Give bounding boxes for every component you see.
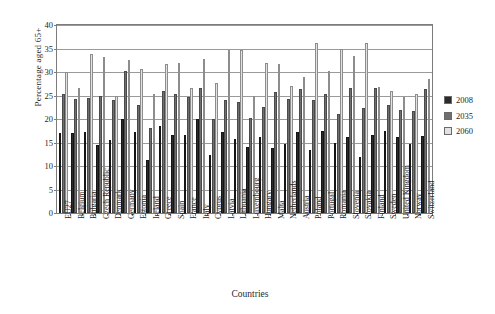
- y-axis-tick-mark: [54, 49, 57, 50]
- y-axis-tick-label: 0: [31, 209, 53, 218]
- bar-group: [332, 25, 345, 213]
- legend-item: 2035: [444, 112, 473, 121]
- y-axis-tick-mark: [54, 190, 57, 191]
- x-axis-tick-label: Romania: [340, 190, 348, 219]
- plot-area: 0510152025303540: [56, 24, 433, 214]
- y-axis-tick-label: 40: [31, 21, 53, 30]
- y-axis-tick-mark: [54, 96, 57, 97]
- x-axis-tick-label: United Kingdom: [403, 165, 411, 219]
- bar: [224, 100, 227, 213]
- legend-item: 2008: [444, 96, 473, 105]
- bar-group: [320, 25, 333, 213]
- x-axis-tick-label: Finland: [378, 195, 386, 219]
- bar: [203, 59, 206, 213]
- x-axis-tick-label: Austria: [303, 195, 311, 219]
- bar-group: [195, 25, 208, 213]
- bar: [303, 77, 306, 213]
- bar: [178, 63, 181, 213]
- x-axis-tick-label: Ireland: [153, 196, 161, 219]
- x-axis-tick-label: Czech Republic: [103, 168, 111, 219]
- x-axis-tick-label: Estonia: [140, 195, 148, 219]
- bar: [187, 97, 190, 213]
- x-axis-tick-label: Belgium: [78, 191, 86, 219]
- bar: [274, 92, 277, 213]
- x-axis-tick-label: Denmark: [115, 189, 123, 219]
- bar-group: [307, 25, 320, 213]
- chart-legend: 200820352060: [444, 96, 473, 143]
- x-axis-tick-label: Poland: [315, 197, 323, 219]
- bar-group: [82, 25, 95, 213]
- bar-group: [120, 25, 133, 213]
- bar: [153, 94, 156, 213]
- bar-group: [132, 25, 145, 213]
- chart-figure: Percentage aged 65+ 0510152025303540 Cou…: [0, 0, 495, 314]
- y-axis-tick-label: 25: [31, 91, 53, 100]
- bar-group: [382, 25, 395, 213]
- x-axis-title: Countries: [160, 289, 340, 299]
- x-axis-tick-label: Netherlands: [290, 180, 298, 219]
- x-axis-tick-label: EU27: [65, 200, 73, 219]
- y-axis-tick-label: 20: [31, 115, 53, 124]
- y-axis-tick-label: 5: [31, 185, 53, 194]
- bar: [315, 43, 318, 213]
- bar: [228, 50, 231, 213]
- y-axis-tick-mark: [54, 119, 57, 120]
- legend-swatch-icon: [444, 127, 452, 135]
- bar-group: [370, 25, 383, 213]
- x-axis-tick-label: Sweden: [390, 194, 398, 219]
- bar: [90, 54, 93, 213]
- y-axis-tick-label: 15: [31, 138, 53, 147]
- bar-series-layer: [57, 25, 432, 213]
- legend-swatch-icon: [444, 112, 452, 120]
- bar: [165, 64, 168, 213]
- x-axis-tick-label: Slovenia: [353, 191, 361, 219]
- legend-item: 2060: [444, 127, 473, 136]
- x-axis-tick-label: Italy: [203, 204, 211, 219]
- x-axis-tick-label: Lithuania: [240, 188, 248, 219]
- legend-swatch-icon: [444, 96, 452, 104]
- x-axis-tick-label: Slovakia: [365, 191, 373, 219]
- bar-group: [170, 25, 183, 213]
- bar-group: [145, 25, 158, 213]
- x-axis-tick-label: Greece: [165, 196, 173, 219]
- bar: [59, 133, 62, 213]
- bar-group: [70, 25, 83, 213]
- x-axis-tick-label: Cyprus: [215, 196, 223, 219]
- x-axis-tick-label: Bulgaria: [90, 191, 98, 219]
- y-axis-tick-mark: [54, 166, 57, 167]
- y-axis-tick-label: 10: [31, 162, 53, 171]
- legend-item-label: 2008: [456, 96, 473, 105]
- bar: [62, 94, 65, 213]
- x-axis-tick-label: Malta: [278, 200, 286, 219]
- y-axis-tick-mark: [54, 25, 57, 26]
- bar: [199, 88, 202, 213]
- y-axis-tick-mark: [54, 143, 57, 144]
- y-axis-tick-mark: [54, 72, 57, 73]
- legend-item-label: 2035: [456, 112, 473, 121]
- bar-group: [182, 25, 195, 213]
- bar-group: [207, 25, 220, 213]
- x-axis-tick-label: France: [190, 197, 198, 219]
- bar: [278, 64, 281, 213]
- bar-group: [157, 25, 170, 213]
- bar: [340, 49, 343, 214]
- bar: [215, 83, 218, 213]
- x-axis-tick-label: Hungary: [265, 191, 273, 219]
- bar: [190, 88, 193, 213]
- legend-item-label: 2060: [456, 127, 473, 136]
- bar-group: [57, 25, 70, 213]
- x-axis-tick-label: Switzerland: [428, 181, 436, 219]
- bar: [65, 72, 68, 213]
- x-axis-tick-label: Norway: [415, 193, 423, 219]
- x-axis-tick-label: Luxembourg: [253, 178, 261, 219]
- x-axis-tick-label: Latvia: [228, 199, 236, 219]
- bar: [140, 69, 143, 213]
- bar: [365, 43, 368, 213]
- bar-group: [357, 25, 370, 213]
- bar-group: [345, 25, 358, 213]
- bar: [162, 91, 165, 213]
- x-axis-tick-label: Germany: [128, 189, 136, 219]
- bar-group: [232, 25, 245, 213]
- y-axis-tick-label: 35: [31, 44, 53, 53]
- bar-group: [220, 25, 233, 213]
